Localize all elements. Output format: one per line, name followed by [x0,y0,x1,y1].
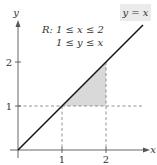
y-axis-label: y [12,7,19,18]
line-label: y = x [121,7,148,18]
y-tick-label-1: 1 [6,101,12,112]
x-tick-label-2: 2 [103,154,109,165]
y-axis-arrow-icon [16,20,21,27]
x-axis-label: x [150,144,156,155]
region-name: R: [41,24,53,35]
x-axis-arrow-icon [143,148,150,153]
region-constraint-1: 1 ≤ x ≤ 2 [56,24,104,35]
y-tick-label-2: 2 [6,57,12,68]
region-constraint-2: 1 ≤ y ≤ x [56,37,103,48]
region-diagram: y = x y x 1 2 1 2 R: 1 ≤ x ≤ 2 1 ≤ y ≤ x [0,0,157,165]
x-tick-label-1: 1 [59,154,65,165]
